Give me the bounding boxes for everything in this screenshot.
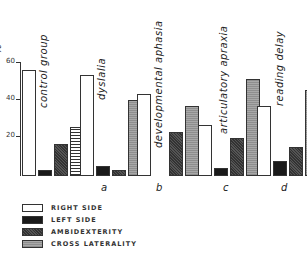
legend-swatch [22, 240, 43, 248]
y-tick-mark [16, 99, 21, 100]
group-label-developmental-aphasia: developmental aphasia [153, 20, 164, 148]
group-letter-a: a [101, 182, 107, 193]
y-axis [20, 62, 21, 176]
group-label-articulatory-apraxia: articulatory apraxia [218, 26, 229, 134]
y-tick-40: 40 [6, 94, 15, 102]
bar-ambidexterity [289, 147, 303, 176]
bar-ambidexterity [54, 144, 68, 176]
y-tick-60: 60 [6, 57, 15, 65]
legend-item-left-side: LEFT SIDE [22, 214, 137, 225]
bar-group [198, 56, 260, 176]
legend-item-ambidexterity: AMBIDEXTERITY [22, 226, 137, 237]
y-tick-20: 20 [6, 131, 15, 139]
group-label-control: control group [38, 34, 49, 108]
bar-group [137, 56, 199, 176]
legend-item-right-side: RIGHT SIDE [22, 202, 137, 213]
bar-cross-laterality [305, 90, 307, 176]
bar-right-side [80, 75, 94, 176]
bar-ambidexterity [230, 138, 244, 176]
bar-ambidexterity [112, 170, 126, 176]
group-letter-d: d [281, 182, 287, 193]
bar-chart: % 60 40 20 control group dyslalia develo… [0, 0, 307, 253]
legend-item-cross-laterality: CROSS LATERALITY [22, 238, 137, 249]
legend-swatch [22, 204, 43, 212]
group-label-dyslalia: dyslalia [96, 58, 107, 100]
y-tick-mark [16, 136, 21, 137]
group-letter-c: c [223, 182, 229, 193]
bar-right-side [137, 94, 151, 176]
bar-right-side [22, 70, 36, 176]
bar-group [22, 56, 84, 176]
legend-swatch [22, 216, 43, 224]
legend-swatch [22, 228, 43, 236]
bar-left-side [273, 161, 287, 176]
bar-right-side [198, 125, 212, 176]
bar-ambidexterity [169, 132, 183, 176]
bar-cross-laterality [185, 106, 199, 176]
legend: RIGHT SIDE LEFT SIDE AMBIDEXTERITY CROSS… [22, 202, 137, 250]
y-tick-mark [16, 62, 21, 63]
y-axis-unit: % [0, 44, 2, 54]
bar-left-side [214, 168, 228, 176]
bar-left-side [96, 166, 110, 176]
bar-left-side [38, 170, 52, 176]
bar-right-side [257, 106, 271, 176]
group-label-reading-delay: reading delay [274, 31, 285, 106]
group-letter-b: b [156, 182, 162, 193]
bar-group [80, 56, 142, 176]
